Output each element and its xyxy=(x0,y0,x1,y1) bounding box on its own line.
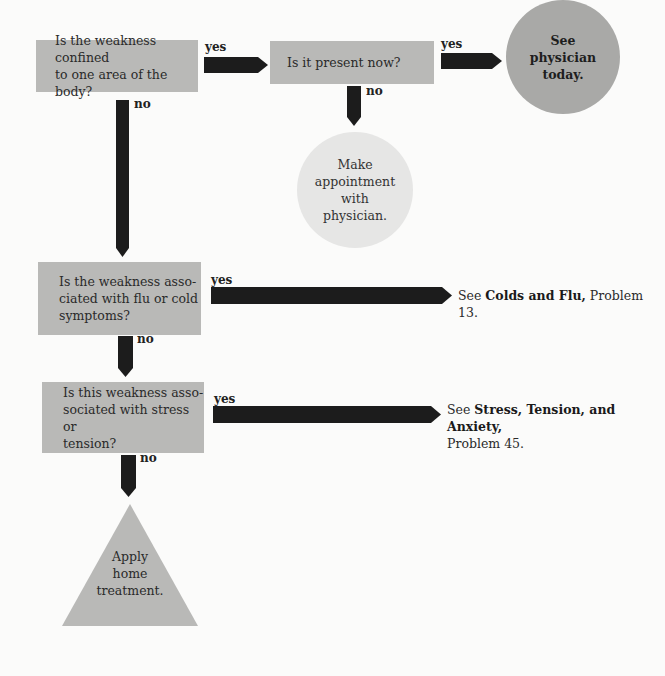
question-text: Is the weakness asso- xyxy=(59,273,198,290)
question-text: to one area of the body? xyxy=(55,66,198,100)
outcome-text: home xyxy=(62,565,198,582)
outcome-text: physician. xyxy=(315,207,395,224)
question-box-present-now: Is it present now? xyxy=(270,41,434,84)
ref-prefix: See xyxy=(447,402,474,417)
reference-colds-and-flu: See Colds and Flu, Problem 13. xyxy=(458,287,665,321)
no-label: no xyxy=(140,451,157,465)
question-text: tension? xyxy=(63,435,204,452)
outcome-text: appointment xyxy=(315,173,395,190)
ref-problem: Problem 45. xyxy=(447,435,665,452)
no-arrow-down-icon xyxy=(118,336,133,377)
yes-label: yes xyxy=(205,40,226,54)
question-text: Is it present now? xyxy=(287,54,401,71)
question-text: Is the weakness confined xyxy=(55,32,198,66)
question-text: ciated with flu or cold xyxy=(59,290,198,307)
ref-prefix: See xyxy=(458,288,485,303)
reference-stress-tension-anxiety: See Stress, Tension, and Anxiety, Proble… xyxy=(447,401,665,452)
outcome-home-treatment: Apply home treatment. xyxy=(62,548,198,599)
outcome-text: today. xyxy=(530,66,596,83)
outcome-see-physician-today: See physician today. xyxy=(506,0,620,114)
yes-arrow-right-icon xyxy=(204,57,268,73)
outcome-text: Make xyxy=(315,156,395,173)
yes-arrow-right-icon xyxy=(211,287,452,304)
ref-topic: Colds and Flu, xyxy=(485,288,586,303)
yes-label: yes xyxy=(214,392,235,406)
no-arrow-down-icon xyxy=(347,86,361,126)
no-label: no xyxy=(134,97,151,111)
question-text: sociated with stress or xyxy=(63,401,204,435)
outcome-text: with xyxy=(315,190,395,207)
yes-arrow-right-icon xyxy=(441,53,502,69)
no-arrow-down-icon xyxy=(121,455,136,497)
yes-arrow-right-icon xyxy=(213,406,441,423)
yes-label: yes xyxy=(211,273,232,287)
question-box-stress-tension: Is this weakness asso- sociated with str… xyxy=(42,382,204,453)
question-text: Is this weakness asso- xyxy=(63,384,204,401)
outcome-text: physician xyxy=(530,49,596,66)
no-label: no xyxy=(137,332,154,346)
outcome-make-appointment: Make appointment with physician. xyxy=(297,132,413,248)
outcome-text: See xyxy=(530,32,596,49)
question-text: symptoms? xyxy=(59,307,198,324)
no-arrow-down-icon xyxy=(116,100,129,257)
yes-label: yes xyxy=(441,37,462,51)
question-box-confined: Is the weakness confined to one area of … xyxy=(36,40,198,92)
outcome-text: treatment. xyxy=(62,582,198,599)
no-label: no xyxy=(366,84,383,98)
question-box-flu-cold: Is the weakness asso- ciated with flu or… xyxy=(38,262,201,335)
outcome-text: Apply xyxy=(62,548,198,565)
